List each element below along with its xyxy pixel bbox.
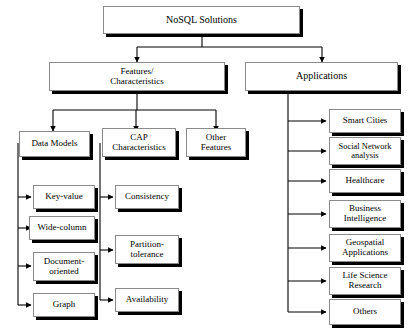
- node-business-intelligence-label: Business Intelligence: [342, 204, 388, 223]
- node-others-label: Others: [351, 307, 379, 317]
- node-consistency-label: Consistency: [123, 192, 171, 202]
- node-root-label: NoSQL Solutions: [164, 15, 239, 26]
- node-graph: Graph: [33, 293, 95, 317]
- node-partition-tolerance: Partition- tolerance: [115, 235, 179, 264]
- node-document-oriented-label: Document- oriented: [42, 257, 87, 276]
- node-life-science-research-label: Life Science Research: [340, 271, 389, 290]
- node-applications-label: Applications: [294, 71, 349, 82]
- node-availability: Availability: [115, 288, 179, 312]
- node-data-models-label: Data Models: [29, 139, 79, 149]
- node-wide-column: Wide-column: [29, 216, 95, 240]
- node-data-models: Data Models: [19, 131, 90, 157]
- node-other-features-label: Other Features: [199, 133, 234, 152]
- node-healthcare: Healthcare: [329, 169, 401, 193]
- node-wide-column-label: Wide-column: [35, 223, 88, 233]
- node-cap-characteristics: CAP Characteristics: [102, 128, 176, 157]
- node-root: NoSQL Solutions: [103, 6, 300, 34]
- node-cap-characteristics-label: CAP Characteristics: [110, 133, 167, 152]
- node-other-features: Other Features: [186, 128, 246, 157]
- node-features-characteristics-label: Features/ Characteristics: [108, 67, 165, 86]
- node-partition-tolerance-label: Partition- tolerance: [128, 240, 166, 259]
- node-social-network-analysis-label: Social Network analysis: [336, 142, 393, 160]
- node-applications: Applications: [245, 62, 398, 91]
- node-others: Others: [329, 299, 401, 325]
- node-features-characteristics: Features/ Characteristics: [49, 62, 225, 91]
- node-availability-label: Availability: [124, 295, 170, 305]
- node-geospatial-applications: Geospatial Applications: [329, 234, 401, 262]
- node-geospatial-applications-label: Geospatial Applications: [340, 238, 390, 257]
- node-smart-cities: Smart Cities: [329, 109, 401, 133]
- node-graph-label: Graph: [51, 300, 78, 310]
- node-consistency: Consistency: [115, 185, 179, 209]
- node-key-value-label: Key-value: [43, 192, 84, 202]
- node-smart-cities-label: Smart Cities: [341, 116, 390, 126]
- node-social-network-analysis: Social Network analysis: [329, 137, 401, 165]
- node-healthcare-label: Healthcare: [344, 176, 387, 186]
- nosql-solutions-flowchart: NoSQL Solutions Features/ Characteristic…: [0, 0, 411, 332]
- node-business-intelligence: Business Intelligence: [329, 200, 401, 228]
- node-life-science-research: Life Science Research: [329, 267, 401, 295]
- node-key-value: Key-value: [33, 185, 95, 209]
- node-document-oriented: Document- oriented: [33, 252, 95, 281]
